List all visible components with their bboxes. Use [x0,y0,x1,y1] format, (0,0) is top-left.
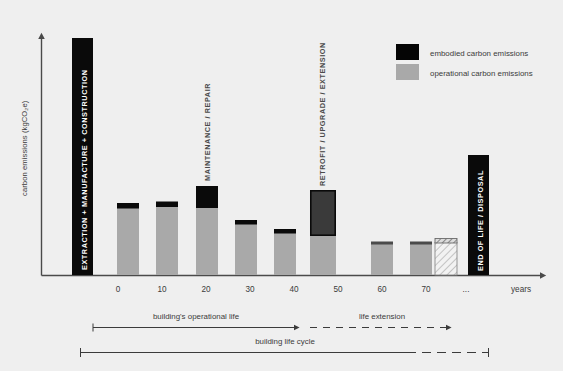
bar-group-5 [310,191,336,275]
chart-figure: carbon emissions (kgCO₂e) 0 10 20 30 40 … [0,0,563,371]
carbon-emissions-bar-chart: carbon emissions (kgCO₂e) 0 10 20 30 40 … [0,0,563,371]
bar-0-operational [117,208,139,275]
bar-5-embodied-retrofit [311,191,335,235]
bar-5-operational [310,235,336,275]
life-extension-label: life extension [359,312,405,321]
x-tick-label-50: 50 [333,285,343,294]
bar-3-embodied [235,220,257,225]
bar-7-operational [410,244,432,275]
operational-life-label: building's operational life [153,312,240,321]
bar-3-operational [235,224,257,275]
bar-0-embodied [117,203,139,209]
x-tick-label-0: 0 [116,285,121,294]
bar-group-4 [274,229,296,275]
bar-group-0 [117,203,139,275]
bar-1-operational [156,207,178,275]
bar-group-7 [410,242,432,276]
maintenance-phase-label: MAINTENANCE / REPAIR [203,83,212,181]
bar-7-embodied [410,242,432,245]
bar-4-embodied [274,229,296,234]
x-tick-label-20: 20 [201,285,211,294]
bar-1-embodied [156,202,178,208]
bar-8-embodied-hatched [435,239,457,244]
x-axis-label: years [511,285,531,294]
legend-label-operational: operational carbon emissions [430,69,533,78]
bar-6-embodied [371,242,393,245]
end-of-life-phase-label: END OF LIFE / DISPOSAL [476,170,485,271]
y-axis-label: carbon emissions (kgCO₂e) [20,100,29,196]
legend-swatch-embodied [396,44,419,60]
x-tick-label-60: 60 [377,285,387,294]
legend-label-embodied: embodied carbon emissions [430,49,528,58]
bar-group-6 [371,242,393,276]
bar-group-8-projected [435,239,457,276]
x-tick-label-30: 30 [245,285,255,294]
bar-group-2 [196,186,218,275]
building-life-cycle-label: building life cycle [255,337,315,346]
legend-swatch-operational [396,64,419,80]
retrofit-phase-label: RETROFIT / UPGRADE / EXTENSION [318,42,327,186]
bar-8-operational-hatched [435,243,457,276]
bar-4-operational [274,233,296,275]
bar-6-operational [371,244,393,275]
x-tick-label-40: 40 [289,285,299,294]
bar-group-3 [235,220,257,275]
bar-2-operational [196,208,218,275]
x-tick-label-ellipsis: ... [463,285,470,294]
bar-extraction-manufacture-construction: EXTRACTION + MANUFACTURE + CONSTRUCTION [72,38,93,275]
bar-2-embodied [196,186,218,208]
x-tick-label-10: 10 [157,285,167,294]
extraction-phase-label: EXTRACTION + MANUFACTURE + CONSTRUCTION [80,69,89,270]
x-tick-label-70: 70 [421,285,431,294]
bar-group-1 [156,202,178,276]
bar-end-of-life-disposal: END OF LIFE / DISPOSAL [468,155,489,275]
